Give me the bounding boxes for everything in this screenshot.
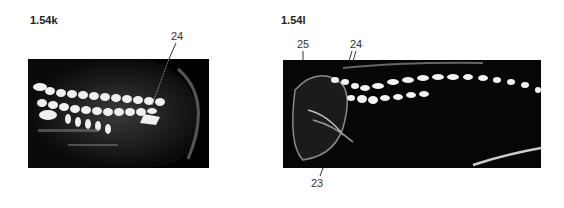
callout-23-l: 23	[311, 177, 323, 189]
callout-24-k: 24	[171, 30, 183, 42]
figure-label-k: 1.54k	[30, 14, 58, 26]
spine-echo-graphic-k	[28, 59, 209, 168]
ultrasound-image-l	[283, 60, 541, 168]
callout-25-l: 25	[297, 38, 309, 50]
figure-label-l: 1.54l	[281, 14, 305, 26]
spine-echo-graphic-l	[283, 60, 541, 168]
callout-24-l: 24	[350, 38, 362, 50]
ultrasound-image-k	[28, 59, 209, 168]
